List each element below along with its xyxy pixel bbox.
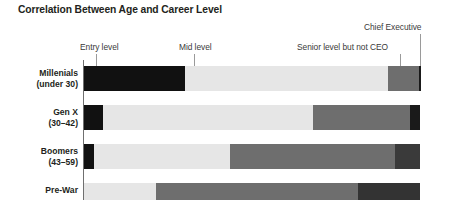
row-label-line1: Millenials xyxy=(39,68,78,78)
bar-segment-ceo xyxy=(410,105,420,130)
category-label-senior: Senior level but not CEO xyxy=(297,42,388,52)
page-title: Correlation Between Age and Career Level xyxy=(18,4,222,15)
bar-segment-entry xyxy=(84,144,94,169)
row-label-line1: Gen X xyxy=(53,107,78,117)
row-label-prewar: Pre-War xyxy=(0,185,78,196)
row-label-line2: (under 30) xyxy=(0,79,78,90)
stacked-bar-boomers xyxy=(84,144,420,169)
category-label-ceo: Chief Executive xyxy=(364,22,421,32)
stacked-bar-prewar xyxy=(84,183,420,200)
row-label-line2: (30–42) xyxy=(0,118,78,129)
row-label-millenials: Millenials (under 30) xyxy=(0,68,78,90)
bar-segment-mid xyxy=(185,66,388,91)
row-label-line2: (43–59) xyxy=(0,157,78,168)
bar-segment-entry xyxy=(84,105,103,130)
bar-segment-mid xyxy=(103,105,313,130)
bar-segment-entry xyxy=(84,66,185,91)
plot-area: Millenials (under 30) Gen X (30–42) xyxy=(0,60,456,200)
bar-row: Pre-War xyxy=(0,183,456,200)
chart-container: Correlation Between Age and Career Level… xyxy=(0,0,456,200)
stacked-bar-millenials xyxy=(84,66,421,91)
bar-segment-ceo xyxy=(358,183,420,200)
stacked-bar-genx xyxy=(84,105,420,130)
bar-row: Millenials (under 30) xyxy=(0,66,456,104)
category-label-entry: Entry level xyxy=(80,42,119,52)
row-label-boomers: Boomers (43–59) xyxy=(0,146,78,168)
bar-segment-senior xyxy=(156,183,358,200)
row-label-genx: Gen X (30–42) xyxy=(0,107,78,129)
bar-row: Gen X (30–42) xyxy=(0,105,456,143)
bar-row: Boomers (43–59) xyxy=(0,144,456,182)
bar-segment-senior xyxy=(388,66,419,91)
category-label-mid: Mid level xyxy=(179,42,212,52)
bar-segment-senior xyxy=(230,144,395,169)
bar-segment-senior xyxy=(313,105,410,130)
bar-segment-ceo xyxy=(419,66,421,91)
bar-segment-mid xyxy=(94,144,230,169)
row-label-line1: Boomers xyxy=(41,146,78,156)
bar-segment-mid xyxy=(84,183,156,200)
row-label-line1: Pre-War xyxy=(45,185,78,195)
bar-segment-ceo xyxy=(395,144,420,169)
